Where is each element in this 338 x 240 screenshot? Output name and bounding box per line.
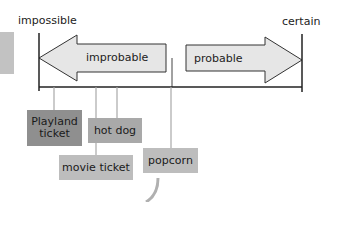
item-label: popcorn (148, 155, 193, 167)
item-card-movie-ticket: movie ticket (59, 155, 133, 180)
item-card-playland-ticket: Playland ticket (27, 110, 82, 146)
item-label: hot dog (94, 125, 136, 137)
probable-label: probable (194, 52, 243, 65)
item-card-popcorn: popcorn (143, 148, 198, 173)
improbable-label: improbable (86, 51, 148, 64)
item-card-hot-dog: hot dog (88, 118, 142, 143)
item-label: movie ticket (62, 162, 130, 174)
item-label: ticket (39, 128, 69, 140)
